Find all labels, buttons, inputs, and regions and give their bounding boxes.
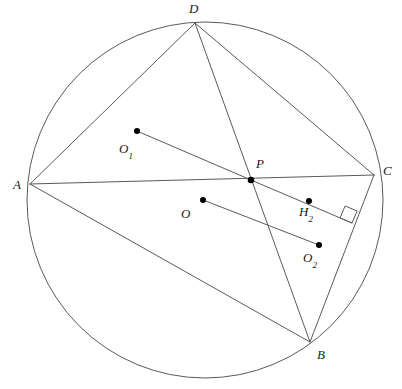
point-label-O2: O2	[303, 251, 317, 268]
right-angle-mark	[340, 206, 357, 223]
subscript-1: 1	[128, 151, 133, 161]
point-label-C: C	[383, 164, 392, 177]
point-label-A: A	[13, 178, 21, 191]
segment-AD	[30, 23, 195, 184]
point-dot-O1	[134, 128, 140, 134]
point-dot-O	[200, 197, 206, 203]
right-angle-square	[340, 206, 357, 223]
point-dot-O2	[316, 242, 322, 248]
subscript-2: 2	[312, 260, 317, 270]
point-dot-P	[248, 177, 255, 184]
segment-CB	[310, 175, 374, 342]
geometry-canvas	[0, 0, 402, 389]
segment-AC	[30, 175, 374, 184]
segment-O1P	[137, 131, 251, 180]
geometry-figure: A B C D P O O1 O2 H2	[0, 0, 402, 389]
point-label-H2: H2	[299, 205, 313, 222]
segment-DC	[195, 23, 374, 175]
point-label-B: B	[317, 348, 325, 361]
point-label-D: D	[189, 2, 198, 15]
point-label-P: P	[256, 157, 264, 170]
point-label-O1: O1	[119, 142, 133, 159]
subscript-2: 2	[308, 214, 313, 224]
point-label-O: O	[181, 207, 190, 220]
point-dot-group	[134, 128, 322, 248]
segment-group	[30, 23, 374, 342]
